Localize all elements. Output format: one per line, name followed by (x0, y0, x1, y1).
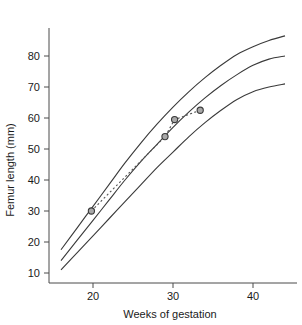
x-tick-label-20: 20 (87, 290, 99, 302)
y-axis-tick-labels: 10 20 30 40 50 60 70 80 (28, 50, 40, 279)
x-axis-tick-labels: 20 30 40 (87, 290, 259, 302)
y-tick-label-20: 20 (28, 236, 40, 248)
y-tick-label-50: 50 (28, 143, 40, 155)
y-tick-label-60: 60 (28, 112, 40, 124)
x-tick-label-40: 40 (247, 290, 259, 302)
y-tick-label-10: 10 (28, 267, 40, 279)
y-tick-label-80: 80 (28, 50, 40, 62)
chart-canvas: 10 20 30 40 50 60 70 80 20 30 40 Weeks o… (0, 0, 302, 325)
series-layer (61, 36, 285, 270)
growth-chart: 10 20 30 40 50 60 70 80 20 30 40 Weeks o… (0, 0, 302, 325)
data-point-marker[interactable] (88, 208, 94, 214)
y-tick-label-40: 40 (28, 174, 40, 186)
patient-trend-line (91, 110, 200, 211)
reference-curve-2 (61, 84, 285, 270)
data-point-marker[interactable] (197, 107, 203, 113)
y-tick-label-70: 70 (28, 81, 40, 93)
data-point-marker[interactable] (172, 116, 178, 122)
y-axis-title: Femur length (mm) (4, 123, 16, 217)
x-axis-ticks (93, 283, 253, 288)
data-point-marker[interactable] (162, 134, 168, 140)
reference-curve-1 (61, 56, 285, 261)
x-tick-label-30: 30 (167, 290, 179, 302)
y-axis-ticks (44, 56, 49, 273)
y-tick-label-30: 30 (28, 205, 40, 217)
x-axis-title: Weeks of gestation (123, 308, 216, 320)
